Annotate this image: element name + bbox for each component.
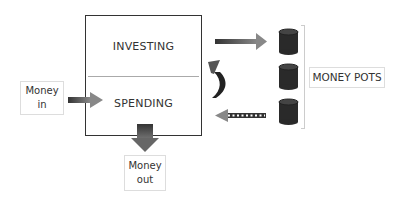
to-pots-arrow-icon	[215, 33, 267, 50]
money-pot-icon	[279, 29, 298, 55]
arrows-layer	[0, 0, 406, 203]
pots-bracket	[301, 25, 305, 129]
from-pots-dotted-arrow-icon	[215, 109, 266, 122]
money-pot-icon	[279, 64, 298, 90]
money-pot-icon	[279, 99, 298, 125]
curved-arrow-icon	[208, 60, 226, 98]
money-out-arrow-icon	[131, 124, 159, 152]
money-in-arrow-icon	[68, 92, 103, 108]
money-pots-label: MONEY POTS	[309, 67, 385, 88]
